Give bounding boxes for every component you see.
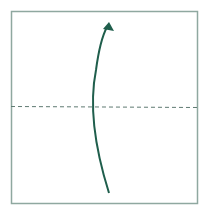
origami-diagram [0, 0, 203, 209]
